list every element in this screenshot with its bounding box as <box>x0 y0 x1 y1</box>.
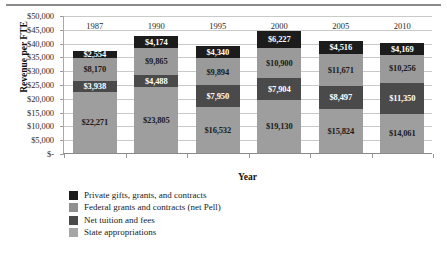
bar-segment-value-label: $9,865 <box>145 57 167 66</box>
bar-segment[interactable]: $19,130 <box>257 100 301 153</box>
bar-segment[interactable]: $3,938 <box>73 81 117 92</box>
x-tick-label: 1995 <box>188 21 248 31</box>
gridline <box>64 85 432 86</box>
bar-segment-value-label: $4,169 <box>391 45 413 54</box>
bar-segment[interactable]: $4,174 <box>134 36 178 48</box>
bar-segment[interactable]: $10,900 <box>257 48 301 78</box>
x-tick-label: 2000 <box>249 21 309 31</box>
bar-group[interactable]: $6,227$10,900$7,904$19,130 <box>257 31 301 153</box>
bar-segment[interactable]: $4,340 <box>196 46 240 58</box>
bar-segment[interactable]: $8,170 <box>73 58 117 81</box>
bar-segment-value-label: $15,824 <box>327 127 354 136</box>
bar-segment-value-label: $3,938 <box>84 82 106 91</box>
bar-segment[interactable]: $4,488 <box>134 75 178 87</box>
x-tick-mark <box>64 154 65 158</box>
legend-item-label: State appropriations <box>84 228 156 237</box>
bar-segment[interactable]: $4,169 <box>380 43 424 55</box>
bar-segment-value-label: $22,271 <box>81 118 108 127</box>
x-tick-mark <box>187 154 188 158</box>
gridline <box>64 140 432 141</box>
y-tick-label: $35,000 <box>27 52 54 62</box>
bar-segment-value-label: $19,130 <box>266 122 293 131</box>
gridline <box>64 16 432 17</box>
top-divider-rule <box>6 4 441 6</box>
x-tick-label: 2010 <box>372 21 432 31</box>
x-tick-mark <box>433 154 434 158</box>
x-tick-label: 1990 <box>126 21 186 31</box>
y-tick-label: $40,000 <box>27 39 54 49</box>
bar-segment[interactable]: $23,805 <box>134 87 178 153</box>
bar-segment-value-label: $10,900 <box>266 59 293 68</box>
legend-color-swatch <box>69 203 78 212</box>
gridline <box>64 113 432 114</box>
bar-segment-value-label: $7,904 <box>268 85 290 94</box>
bar-segment[interactable]: $4,516 <box>319 41 363 53</box>
revenue-per-fte-stacked-bar-chart: Revenue per FTE $-$5,000$10,000$15,000$2… <box>0 0 447 260</box>
bar-segment-value-label: $8,497 <box>330 93 352 102</box>
gridline <box>64 57 432 58</box>
y-tick-label: $10,000 <box>27 121 54 131</box>
bar-group[interactable]: $4,174$9,865$4,488$23,805 <box>134 36 178 153</box>
legend-color-swatch <box>69 216 78 225</box>
x-tick-label: 1987 <box>65 21 125 31</box>
bar-group[interactable]: $2,554$8,170$3,938$22,271 <box>73 51 117 153</box>
y-tick-label: $15,000 <box>27 108 54 118</box>
bar-segment-value-label: $7,950 <box>207 92 229 101</box>
legend-color-swatch <box>69 191 78 200</box>
x-tick-mark <box>310 154 311 158</box>
bar-segment-value-label: $4,488 <box>145 77 167 86</box>
legend-item[interactable]: Private gifts, grants, and contracts <box>69 189 221 202</box>
bar-segment[interactable]: $9,865 <box>134 48 178 75</box>
y-tick-label: $- <box>47 149 54 159</box>
gridline <box>64 99 432 100</box>
bar-group[interactable]: $4,169$10,256$11,350$14,061 <box>380 43 424 153</box>
bar-segment-value-label: $8,170 <box>84 65 106 74</box>
bar-segment[interactable]: $2,554 <box>73 51 117 58</box>
bar-segment-value-label: $10,256 <box>389 64 416 73</box>
bar-segment[interactable]: $11,671 <box>319 54 363 86</box>
bar-segment[interactable]: $14,061 <box>380 114 424 153</box>
legend-item[interactable]: Federal grants and contracts (net Pell) <box>69 202 221 215</box>
legend-item-label: Net tuition and fees <box>84 216 155 225</box>
bar-segment[interactable]: $7,950 <box>196 85 240 107</box>
bar-segment-value-label: $9,894 <box>207 68 229 77</box>
x-tick-mark <box>372 154 373 158</box>
bar-segment[interactable]: $9,894 <box>196 58 240 85</box>
bar-segment-value-label: $11,350 <box>389 94 415 103</box>
y-tick-label: $30,000 <box>27 66 54 76</box>
x-axis-title: Year <box>63 172 432 182</box>
bar-segment[interactable]: $15,824 <box>319 109 363 153</box>
bar-segment[interactable]: $6,227 <box>257 31 301 48</box>
legend-item[interactable]: Net tuition and fees <box>69 214 221 227</box>
bar-group[interactable]: $4,516$11,671$8,497$15,824 <box>319 41 363 153</box>
y-tick-label: $50,000 <box>27 11 54 21</box>
bar-segment[interactable]: $22,271 <box>73 92 117 153</box>
y-tick-label: $45,000 <box>27 25 54 35</box>
bar-segment[interactable]: $16,532 <box>196 107 240 153</box>
legend-item-label: Private gifts, grants, and contracts <box>84 191 206 200</box>
y-tick-label: $5,000 <box>31 135 54 145</box>
bar-segment-value-label: $4,340 <box>207 48 229 57</box>
gridline <box>64 71 432 72</box>
bar-segment-value-label: $23,805 <box>143 116 170 125</box>
bar-segment[interactable]: $11,350 <box>380 83 424 114</box>
bar-segment[interactable]: $7,904 <box>257 78 301 100</box>
bar-segment-value-label: $4,174 <box>145 38 167 47</box>
bar-segment-value-label: $16,532 <box>204 126 231 135</box>
bar-segment-value-label: $4,516 <box>330 43 352 52</box>
legend-color-swatch <box>69 228 78 237</box>
legend-item-label: Federal grants and contracts (net Pell) <box>84 203 221 212</box>
y-tick-label: $25,000 <box>27 80 54 90</box>
bar-segment-value-label: $14,061 <box>389 129 416 138</box>
x-tick-mark <box>249 154 250 158</box>
bar-segment-value-label: $2,554 <box>84 51 106 58</box>
x-tick-label: 2005 <box>311 21 371 31</box>
bar-group[interactable]: $4,340$9,894$7,950$16,532 <box>196 46 240 153</box>
gridline <box>64 126 432 127</box>
bar-segment[interactable]: $10,256 <box>380 55 424 83</box>
bar-segment-value-label: $6,227 <box>268 35 290 44</box>
legend-item[interactable]: State appropriations <box>69 227 221 240</box>
bar-segment-value-label: $11,671 <box>328 66 354 75</box>
bar-segment[interactable]: $8,497 <box>319 86 363 109</box>
y-axis-tick-labels: $-$5,000$10,000$15,000$20,000$25,000$30,… <box>0 16 60 154</box>
